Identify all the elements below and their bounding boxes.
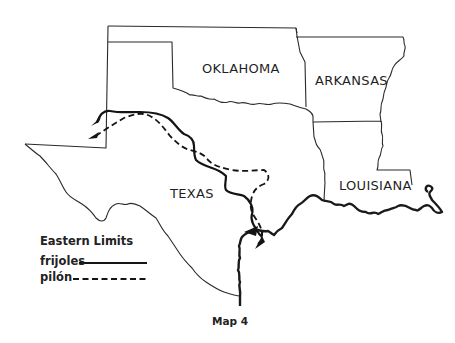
state-label-arkansas: ARKANSAS xyxy=(315,73,388,88)
map-caption: Map 4 xyxy=(212,315,248,327)
legend-title: Eastern Limits xyxy=(40,234,133,248)
state-label-texas: TEXAS xyxy=(170,186,214,201)
legend-item-pilon: pilón xyxy=(40,270,72,284)
texas-west-border xyxy=(25,26,108,148)
map-canvas xyxy=(0,0,455,343)
gulf-coastline xyxy=(238,186,442,306)
oklahoma-east-border xyxy=(296,28,306,107)
pilon-arrow-west xyxy=(88,132,99,139)
state-label-louisiana: LOUISIANA xyxy=(339,178,412,193)
legend-item-frijoles: frijoles xyxy=(40,254,85,268)
state-label-oklahoma: OKLAHOMA xyxy=(202,61,280,76)
frijoles-route xyxy=(97,111,262,236)
pilon-arrow-south xyxy=(255,236,265,249)
